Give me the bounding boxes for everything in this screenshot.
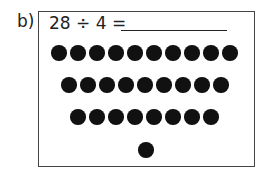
- dot: [99, 77, 115, 93]
- dot: [222, 45, 238, 61]
- dot: [184, 45, 200, 61]
- dot: [146, 45, 162, 61]
- dot: [61, 77, 77, 93]
- dot: [146, 109, 162, 125]
- dot: [127, 109, 143, 125]
- dot: [194, 77, 210, 93]
- dot: [203, 45, 219, 61]
- answer-blank-line[interactable]: [121, 30, 227, 31]
- dot: [213, 77, 229, 93]
- dot: [138, 142, 154, 158]
- dot: [51, 45, 67, 61]
- dot: [108, 109, 124, 125]
- dot: [137, 77, 153, 93]
- dot: [70, 45, 86, 61]
- dot-row-2: [61, 77, 229, 93]
- dot: [70, 109, 86, 125]
- dot: [184, 109, 200, 125]
- dot: [127, 45, 143, 61]
- dot-row-4: [138, 142, 154, 158]
- dot: [118, 77, 134, 93]
- dot: [165, 45, 181, 61]
- dot: [108, 45, 124, 61]
- dot-row-3: [70, 109, 219, 125]
- dot: [156, 77, 172, 93]
- dot: [203, 109, 219, 125]
- division-equation: 28 ÷ 4 =: [49, 13, 126, 33]
- dot: [89, 45, 105, 61]
- dot: [165, 109, 181, 125]
- question-label: b): [17, 11, 34, 31]
- dot-row-1: [51, 45, 238, 61]
- dot: [89, 109, 105, 125]
- dot: [175, 77, 191, 93]
- dot: [80, 77, 96, 93]
